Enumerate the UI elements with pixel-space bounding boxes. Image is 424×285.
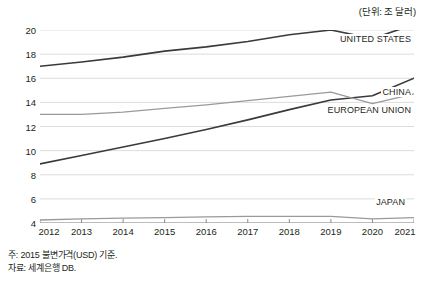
footnote-note: 주: 2015 불변가격(USD) 기준. bbox=[8, 249, 117, 262]
y-tick-label: 14 bbox=[6, 97, 36, 108]
x-tick-label: 2021 bbox=[394, 226, 415, 237]
y-tick-label: 18 bbox=[6, 49, 36, 60]
x-axis: 2012201320142015201620172018201920202021 bbox=[40, 226, 414, 242]
x-tick-label: 2019 bbox=[320, 226, 341, 237]
y-tick-label: 8 bbox=[6, 169, 36, 180]
x-tick-label: 2016 bbox=[196, 226, 217, 237]
unit-note: (단위: 조 달러) bbox=[359, 4, 416, 18]
plot-svg bbox=[40, 30, 414, 223]
footnotes: 주: 2015 불변가격(USD) 기준. 자료: 세계은행 DB. bbox=[8, 249, 117, 275]
series-lines bbox=[40, 30, 414, 220]
y-tick-label: 6 bbox=[6, 193, 36, 204]
chart-figure: (단위: 조 달러) 468101214161820 UNITED STATES… bbox=[0, 0, 424, 285]
gridlines bbox=[40, 30, 414, 223]
x-tick-label: 2012 bbox=[38, 226, 59, 237]
x-tick-label: 2013 bbox=[71, 226, 92, 237]
series-line-japan bbox=[40, 216, 414, 220]
plot-area: UNITED STATESCHINAEUROPEAN UNIONJAPAN bbox=[40, 30, 414, 223]
series-label-china: CHINA bbox=[381, 87, 412, 97]
series-label-european-union: EUROPEAN UNION bbox=[327, 105, 412, 115]
x-tick-label: 2015 bbox=[154, 226, 175, 237]
series-label-japan: JAPAN bbox=[375, 197, 406, 207]
series-label-united-states: UNITED STATES bbox=[339, 34, 412, 44]
footnote-source: 자료: 세계은행 DB. bbox=[8, 262, 117, 275]
y-tick-label: 10 bbox=[6, 145, 36, 156]
x-tick-label: 2017 bbox=[237, 226, 258, 237]
x-tick-label: 2018 bbox=[279, 226, 300, 237]
y-tick-label: 16 bbox=[6, 73, 36, 84]
y-tick-label: 4 bbox=[6, 218, 36, 229]
x-axis-ticks bbox=[40, 219, 414, 223]
y-axis: 468101214161820 bbox=[0, 30, 36, 223]
x-tick-label: 2014 bbox=[113, 226, 134, 237]
y-tick-label: 12 bbox=[6, 121, 36, 132]
y-tick-label: 20 bbox=[6, 25, 36, 36]
x-tick-label: 2020 bbox=[362, 226, 383, 237]
